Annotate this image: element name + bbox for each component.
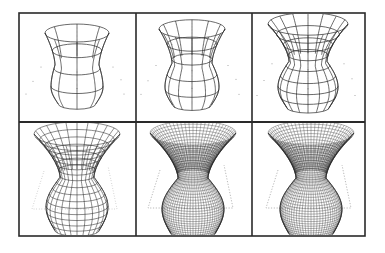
- axis-dot: [41, 67, 42, 68]
- axis-dot: [33, 81, 34, 82]
- axis-dot: [113, 67, 114, 68]
- axis-dot: [264, 80, 265, 81]
- hyperboloid-wireframe-figure: [0, 0, 385, 253]
- axis-dot: [26, 94, 27, 95]
- axis-dot: [228, 65, 229, 66]
- axis-dot: [355, 95, 356, 96]
- axis-dot: [156, 65, 157, 66]
- axis-dot: [352, 78, 353, 79]
- axis-dot: [272, 63, 273, 64]
- axis-dot: [239, 94, 240, 95]
- axis-dot: [214, 44, 215, 45]
- axis-dot: [121, 79, 122, 80]
- axis-dot: [236, 79, 237, 80]
- axis-dot: [344, 63, 345, 64]
- figure-canvas: [0, 0, 385, 253]
- axis-dot: [257, 95, 258, 96]
- axis-dot: [148, 80, 149, 81]
- axis-dot: [124, 94, 125, 95]
- axis-dot: [141, 94, 142, 95]
